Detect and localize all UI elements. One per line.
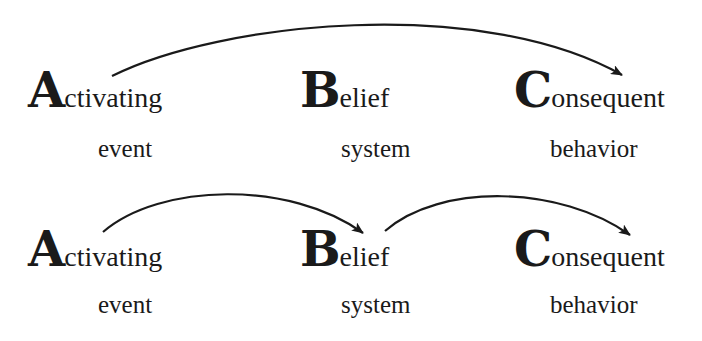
term-belief: Belief bbox=[300, 225, 389, 273]
term-rest: elief bbox=[340, 241, 390, 272]
term-rest: elief bbox=[340, 82, 390, 113]
term-rest: ctivating bbox=[64, 82, 162, 113]
term-consequent: Consequent bbox=[514, 225, 665, 273]
arrows-layer bbox=[0, 0, 702, 341]
term-initial: B bbox=[300, 62, 340, 118]
subtitle-system: system bbox=[341, 136, 410, 161]
term-initial: A bbox=[28, 221, 64, 277]
term-consequent: Consequent bbox=[514, 66, 665, 114]
term-initial: C bbox=[514, 221, 551, 277]
term-initial: C bbox=[514, 62, 551, 118]
subtitle-behavior: behavior bbox=[550, 292, 637, 317]
subtitle-event: event bbox=[98, 136, 152, 161]
term-activating: Activating bbox=[28, 225, 162, 273]
term-initial: B bbox=[300, 221, 340, 277]
term-rest: ctivating bbox=[64, 241, 162, 272]
term-rest: onsequent bbox=[551, 241, 665, 272]
term-activating: Activating bbox=[28, 66, 162, 114]
abc-model-diagram: Activating event Belief system Consequen… bbox=[0, 0, 702, 341]
term-rest: onsequent bbox=[551, 82, 665, 113]
subtitle-system: system bbox=[341, 292, 410, 317]
term-initial: A bbox=[28, 62, 64, 118]
subtitle-behavior: behavior bbox=[550, 136, 637, 161]
term-belief: Belief bbox=[300, 66, 389, 114]
subtitle-event: event bbox=[98, 292, 152, 317]
